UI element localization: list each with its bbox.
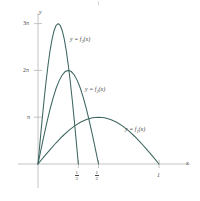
curve-f3 [38,24,78,164]
curve-f1 [38,117,159,164]
plot-area [0,0,200,201]
curve-f2 [38,70,99,164]
figure-container: y x π 2π 3π 1 3 1 2 1 y = f3(x) y = f2(x… [0,0,200,201]
